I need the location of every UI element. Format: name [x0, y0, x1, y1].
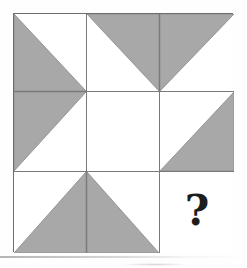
- question-mark-marker: ?: [160, 172, 234, 253]
- matrix-grid: ?: [13, 13, 233, 252]
- matrix-cell-r2c3[interactable]: [160, 92, 234, 172]
- matrix-cell-r3c2[interactable]: [87, 172, 160, 253]
- matrix-cell-r1c1[interactable]: [14, 14, 87, 92]
- puzzle-canvas: ?: [0, 0, 247, 268]
- matrix-cell-r1c2[interactable]: [87, 14, 160, 92]
- triangle-top-left-icon: [160, 14, 234, 91]
- triangle-bottom-right-icon: [160, 92, 234, 171]
- scan-artifact-line: [0, 256, 247, 258]
- matrix-cell-r2c1[interactable]: [14, 92, 87, 172]
- scan-artifact-smudge: [120, 263, 190, 266]
- triangle-bottom-left-icon: [14, 14, 86, 91]
- triangle-top-left-icon: [14, 92, 86, 171]
- triangle-bottom-right-icon: [14, 172, 86, 253]
- matrix-cell-r3c1[interactable]: [14, 172, 87, 253]
- empty-cell-region: [87, 92, 159, 171]
- matrix-cell-r2c2[interactable]: [87, 92, 160, 172]
- matrix-cell-r3c3-answer[interactable]: ?: [160, 172, 234, 253]
- matrix-cell-r1c3[interactable]: [160, 14, 234, 92]
- triangle-top-right-icon: [87, 14, 159, 91]
- triangle-bottom-left-icon: [87, 172, 159, 253]
